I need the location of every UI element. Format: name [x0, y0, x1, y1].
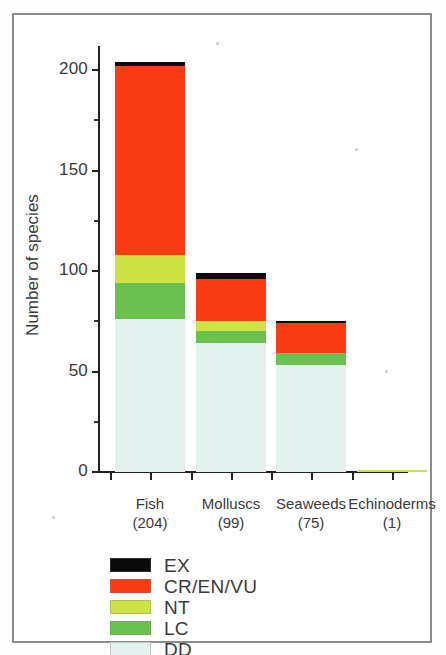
x-tick — [271, 473, 273, 480]
legend-label: NT — [164, 597, 190, 619]
legend-label: LC — [164, 618, 189, 640]
x-category-name: Seaweeds — [276, 495, 346, 512]
x-category-name: Molluscs — [202, 495, 260, 512]
plot-area: Number of species 050100150200 Fish(204)… — [0, 0, 446, 655]
bar-segment-nt — [357, 470, 427, 472]
x-tick — [110, 473, 112, 480]
y-tick-minor — [94, 421, 98, 423]
bar-segment-nt — [196, 321, 266, 331]
bar-segment-lc — [115, 283, 185, 319]
y-tick-label: 100 — [32, 260, 88, 280]
x-tick — [352, 473, 354, 480]
paper-speck — [52, 516, 55, 519]
bar-echinoderms — [357, 0, 427, 480]
y-tick-label: 200 — [32, 59, 88, 79]
y-tick-major — [92, 371, 98, 373]
bar-fish — [115, 0, 185, 480]
y-tick-label: 0 — [32, 461, 88, 481]
bar-segment-dd — [196, 343, 266, 472]
bar-segment-ex — [115, 62, 185, 66]
x-category-name: Echinoderms — [348, 495, 436, 512]
y-tick-major — [92, 69, 98, 71]
bar-segment-nt — [115, 255, 185, 283]
paper-speck — [355, 148, 358, 151]
legend-swatch — [110, 642, 151, 655]
y-tick-major — [92, 170, 98, 172]
bar-molluscs — [196, 0, 266, 480]
y-tick-label-wrap: 200 — [30, 59, 88, 79]
y-tick-label-wrap: 50 — [30, 361, 88, 381]
y-axis-line — [98, 46, 100, 473]
y-tick-minor — [94, 320, 98, 322]
y-tick-label: 50 — [32, 361, 88, 381]
y-tick-major — [92, 471, 98, 473]
y-tick-minor — [94, 119, 98, 121]
legend-label: CR/EN/VU — [164, 576, 257, 598]
x-tick — [191, 473, 193, 480]
x-category-count: (1) — [340, 513, 444, 532]
y-tick-label-wrap: 150 — [30, 160, 88, 180]
bar-segment-lc — [276, 353, 346, 365]
bar-segment-cr-en-vu — [276, 323, 346, 353]
x-category-label: Echinoderms(1) — [340, 494, 444, 532]
legend-swatch — [110, 621, 151, 635]
legend-label: EX — [164, 555, 190, 577]
bar-segment-ex — [196, 273, 266, 279]
bar-segment-lc — [196, 331, 266, 343]
y-tick-label-wrap: 0 — [30, 461, 88, 481]
chart-figure: Number of species 050100150200 Fish(204)… — [0, 0, 446, 655]
x-category-name: Fish — [136, 495, 164, 512]
paper-speck — [167, 518, 169, 520]
bar-seaweeds — [276, 0, 346, 480]
legend-swatch — [110, 600, 151, 614]
bar-segment-cr-en-vu — [196, 279, 266, 321]
legend-swatch — [110, 579, 151, 593]
y-tick-label-wrap: 100 — [30, 260, 88, 280]
y-tick-minor — [94, 220, 98, 222]
bar-segment-dd — [115, 319, 185, 472]
legend-label: DD — [164, 639, 192, 655]
y-tick-label: 150 — [32, 160, 88, 180]
bar-segment-dd — [276, 365, 346, 472]
y-tick-major — [92, 270, 98, 272]
paper-speck — [385, 370, 388, 373]
paper-speck — [216, 42, 219, 45]
bar-segment-cr-en-vu — [115, 66, 185, 255]
legend-swatch — [110, 558, 151, 572]
bar-segment-ex — [276, 321, 346, 323]
